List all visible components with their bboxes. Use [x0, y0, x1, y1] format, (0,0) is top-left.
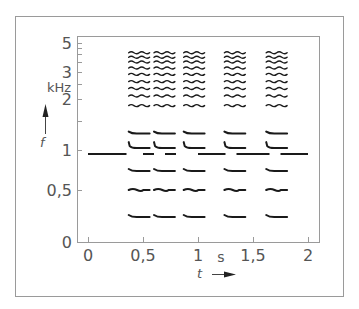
partial-line — [224, 105, 245, 107]
partial-line — [154, 142, 175, 148]
partial-line — [184, 132, 205, 134]
partial-line — [224, 56, 245, 58]
y-axis-symbol: f — [40, 135, 47, 150]
partial-line — [154, 95, 175, 97]
partial-line — [224, 189, 245, 191]
partial-line — [266, 67, 287, 69]
partial-line — [129, 132, 150, 134]
partial-line — [224, 61, 245, 63]
y-unit-label: kHz — [47, 80, 71, 95]
partial-line — [266, 73, 287, 75]
partial-line — [184, 52, 205, 54]
partial-line — [154, 73, 175, 75]
tone-bursts — [129, 52, 287, 217]
partial-line — [129, 88, 150, 90]
partial-line — [266, 81, 287, 83]
tone-burst — [266, 52, 287, 217]
partial-line — [184, 105, 205, 107]
partial-line — [266, 189, 287, 191]
partial-line — [129, 73, 150, 75]
partial-line — [154, 132, 175, 134]
partial-line — [129, 67, 150, 69]
partial-line — [184, 95, 205, 97]
partial-line — [184, 56, 205, 58]
x-tick-label: 2 — [303, 246, 313, 265]
partial-line — [184, 61, 205, 63]
x-tick-label: 1,5 — [240, 246, 265, 265]
y-tick-label: 1 — [62, 141, 72, 160]
partial-line — [154, 61, 175, 63]
x-tick-label: 0 — [83, 246, 93, 265]
partial-line — [224, 88, 245, 90]
tone-burst — [154, 52, 175, 217]
partial-line — [129, 189, 150, 191]
partial-line — [154, 88, 175, 90]
partial-line — [154, 56, 175, 58]
spectrogram-chart: 00,51235 00,511,52 kHz f s t — [0, 0, 359, 309]
partial-line — [129, 105, 150, 107]
partial-line — [224, 142, 245, 148]
partial-line — [154, 189, 175, 191]
partial-line — [184, 215, 205, 217]
partial-line — [129, 61, 150, 63]
partial-line — [154, 81, 175, 83]
partial-line — [184, 67, 205, 69]
partial-line — [266, 169, 287, 171]
partial-line — [129, 81, 150, 83]
partial-line — [266, 142, 287, 148]
partial-line — [184, 81, 205, 83]
y-axis-arrow-icon — [43, 104, 49, 134]
partial-line — [224, 169, 245, 171]
partial-line — [184, 189, 205, 191]
partial-line — [266, 52, 287, 54]
partial-line — [184, 73, 205, 75]
partial-line — [266, 105, 287, 107]
partial-line — [154, 105, 175, 107]
tone-burst — [224, 52, 245, 217]
partial-line — [129, 56, 150, 58]
partial-line — [224, 73, 245, 75]
partial-line — [154, 215, 175, 217]
x-tick-label: 0,5 — [130, 246, 155, 265]
partial-line — [266, 56, 287, 58]
x-axis-ticks — [89, 237, 309, 242]
partial-line — [224, 67, 245, 69]
partial-line — [224, 95, 245, 97]
partial-line — [129, 215, 150, 217]
partial-line — [266, 88, 287, 90]
partial-line — [154, 52, 175, 54]
partial-line — [129, 169, 150, 171]
partial-line — [129, 52, 150, 54]
partial-line — [224, 81, 245, 83]
y-tick-label: 0,5 — [47, 181, 72, 200]
partial-line — [224, 52, 245, 54]
x-tick-label: 1 — [193, 246, 203, 265]
y-tick-label: 0 — [62, 233, 72, 252]
y-axis-labels: 00,51235 — [47, 34, 72, 252]
tone-burst — [129, 52, 150, 217]
partial-line — [266, 132, 287, 134]
partial-line — [184, 88, 205, 90]
partial-line — [266, 61, 287, 63]
x-axis-arrow-icon — [212, 272, 236, 278]
partial-line — [224, 132, 245, 134]
partial-line — [154, 67, 175, 69]
tone-burst — [184, 52, 205, 217]
y-tick-label: 5 — [62, 34, 72, 53]
partial-line — [154, 169, 175, 171]
partial-line — [266, 215, 287, 217]
partial-line — [184, 142, 205, 148]
partial-line — [224, 215, 245, 217]
x-axis-labels: 00,511,52 — [83, 246, 313, 265]
partial-line — [266, 95, 287, 97]
x-unit-label: s — [217, 249, 224, 265]
x-axis-symbol: t — [197, 266, 203, 281]
partial-line — [184, 169, 205, 171]
partial-line — [129, 142, 150, 148]
partial-line — [129, 95, 150, 97]
